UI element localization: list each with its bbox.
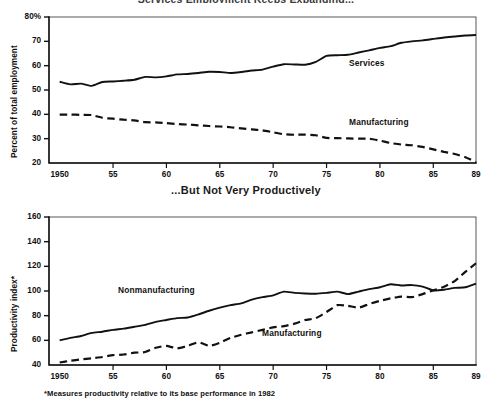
x-tick-bottom-3: 65 <box>200 372 240 381</box>
x-tick-bottom-1: 55 <box>93 372 133 381</box>
y-tick-bottom-0: 40 <box>32 360 41 369</box>
chart-footnote: *Measures productivity relative to its b… <box>44 389 275 398</box>
series-line-services <box>60 35 476 86</box>
y-tick-bottom-6: 160 <box>27 212 41 221</box>
y-tick-top-0: 20 <box>32 158 41 167</box>
x-tick-top-6: 80 <box>360 170 400 179</box>
x-tick-top-2: 60 <box>146 170 186 179</box>
y-tick-top-3: 50 <box>32 85 41 94</box>
x-tick-top-8: 89 <box>456 170 492 179</box>
figure-root: Services Employment Keeps Expanding... P… <box>0 0 492 407</box>
chart-panel-employment: Percent of total employment Services Man… <box>0 0 492 186</box>
y-axis-label-bottom: Productivity index* <box>10 276 19 352</box>
series-line-manufacturing <box>60 115 476 162</box>
y-tick-bottom-2: 80 <box>32 311 41 320</box>
y-tick-top-1: 30 <box>32 134 41 143</box>
x-tick-bottom-0: 1950 <box>40 372 80 381</box>
y-tick-top-4: 60 <box>32 61 41 70</box>
y-tick-bottom-1: 60 <box>32 335 41 344</box>
x-tick-bottom-2: 60 <box>146 372 186 381</box>
y-tick-bottom-3: 100 <box>27 286 41 295</box>
x-tick-bottom-5: 75 <box>307 372 347 381</box>
y-tick-top-2: 40 <box>32 109 41 118</box>
y-tick-bottom-4: 120 <box>27 261 41 270</box>
x-tick-top-7: 85 <box>413 170 453 179</box>
y-tick-bottom-5: 140 <box>27 237 41 246</box>
series-label-manufacturing-productivity: Manufacturing <box>262 328 322 338</box>
series-label-nonmanufacturing: Nonmanufacturing <box>118 285 195 295</box>
y-tick-top-5: 70 <box>32 36 41 45</box>
middle-chart-title: ...But Not Very Productively <box>0 184 492 196</box>
x-tick-top-0: 1950 <box>40 170 80 179</box>
x-tick-bottom-8: 89 <box>456 372 492 381</box>
x-tick-bottom-4: 70 <box>253 372 293 381</box>
series-line-manufacturing <box>60 263 476 362</box>
x-tick-bottom-7: 85 <box>413 372 453 381</box>
chart-panel-productivity: Productivity index* Nonmanufacturing Man… <box>0 200 492 407</box>
employment-share-plot <box>0 0 492 186</box>
y-axis-label-top: Percent of total employment <box>10 45 19 158</box>
x-tick-bottom-6: 80 <box>360 372 400 381</box>
x-tick-top-1: 55 <box>93 170 133 179</box>
x-tick-top-5: 75 <box>307 170 347 179</box>
y-tick-top-6: 80% <box>25 12 41 21</box>
series-label-services: Services <box>349 58 385 68</box>
x-tick-top-3: 65 <box>200 170 240 179</box>
series-label-manufacturing: Manufacturing <box>349 117 409 127</box>
x-tick-top-4: 70 <box>253 170 293 179</box>
